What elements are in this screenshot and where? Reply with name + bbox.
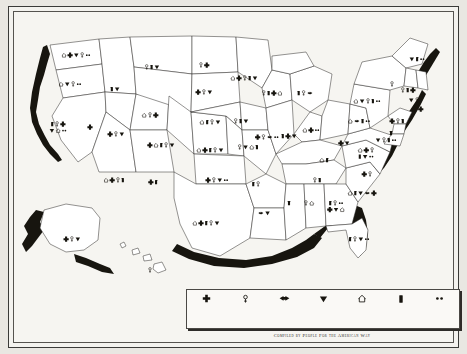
book-block-icon xyxy=(398,293,404,304)
state-issue-icon-book xyxy=(111,87,113,91)
bow-ribbon-icon xyxy=(279,293,290,304)
state-issue-icon-plus xyxy=(110,178,115,183)
state-issue-icon-venus xyxy=(402,88,405,93)
legend-row xyxy=(187,290,459,331)
venus-female-icon xyxy=(241,293,250,304)
state-issue-icon-book xyxy=(329,201,331,205)
state-issue-icon-plus xyxy=(371,191,376,196)
state-issue-icon-book xyxy=(326,158,328,162)
state-issue-icon-book xyxy=(240,119,242,123)
map-page: Compiled by People For the American Way xyxy=(0,0,467,354)
state-issue-icon-book xyxy=(268,91,270,95)
state-issue-icon-book xyxy=(319,178,321,182)
two-dots-icon xyxy=(434,293,445,304)
state-issue-icon-book xyxy=(256,145,258,149)
legend-item xyxy=(342,293,381,305)
poster-caption: Compiled by People For the American Way xyxy=(186,333,458,338)
legend xyxy=(186,289,460,329)
state-issue-icon-venus xyxy=(117,178,120,183)
cross-plus-icon xyxy=(202,293,211,304)
poster-inner-frame: Compiled by People For the American Way xyxy=(13,11,454,343)
legend-item xyxy=(226,293,265,305)
legend-item xyxy=(265,293,304,305)
state-issue-icon-book xyxy=(288,201,290,205)
state-issue-icon-book xyxy=(407,88,409,92)
state-issue-icon-book xyxy=(205,221,207,225)
state-issue-icon-book xyxy=(282,134,284,138)
state-issue-icon-book xyxy=(252,182,254,186)
state-issue-icon-book xyxy=(354,191,356,195)
state-issue-icon-venus xyxy=(149,268,152,273)
state-issue-icon-book xyxy=(416,57,418,61)
state-issue-icon-plus xyxy=(148,180,153,185)
legend-item xyxy=(381,293,420,305)
state-outlines xyxy=(40,36,428,273)
state-issue-icon-book xyxy=(249,76,251,80)
state-issue-icon-book xyxy=(298,91,300,95)
state-issue-icon-triangle xyxy=(50,129,54,133)
state-issue-icon-book xyxy=(209,148,211,152)
down-triangle-icon xyxy=(319,293,328,304)
state-issue-icon-book xyxy=(402,119,404,123)
state-issue-icon-book xyxy=(388,138,390,142)
legend-item xyxy=(420,293,459,305)
state-issue-icon-book xyxy=(51,122,53,126)
state-issue-icon-book xyxy=(390,131,392,135)
state-issue-icon-book xyxy=(122,178,124,182)
poster-outer-frame: Compiled by People For the American Way xyxy=(8,6,459,348)
state-issue-icon-book xyxy=(206,120,208,124)
house-home-icon xyxy=(357,293,367,304)
state-issue-icon-book xyxy=(372,99,374,103)
state-issue-icon-plus xyxy=(410,88,415,93)
state-issue-icon-triangle xyxy=(170,144,174,148)
state-issue-icon-book xyxy=(359,154,361,158)
state-issue-icon-house xyxy=(104,178,108,182)
state-issue-icon-book xyxy=(349,237,351,241)
legend-item xyxy=(187,293,226,305)
state-issue-icon-book xyxy=(151,65,153,69)
legend-item xyxy=(304,293,343,305)
state-issue-icon-book xyxy=(160,143,162,147)
state-issue-icon-book xyxy=(362,119,364,123)
state-issue-icon-triangle xyxy=(292,135,296,139)
state-issue-icon-book xyxy=(155,180,157,184)
state-issue-icon-triangle xyxy=(409,99,413,103)
